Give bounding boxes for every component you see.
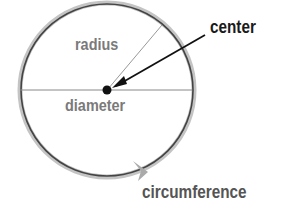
center-dot	[103, 86, 112, 95]
radius-label: radius	[75, 35, 118, 55]
center-label: center	[210, 17, 256, 38]
circumference-label: circumference	[142, 182, 247, 203]
circle-diagram: radius diameter center circumference	[0, 0, 290, 219]
diameter-label: diameter	[65, 96, 125, 116]
